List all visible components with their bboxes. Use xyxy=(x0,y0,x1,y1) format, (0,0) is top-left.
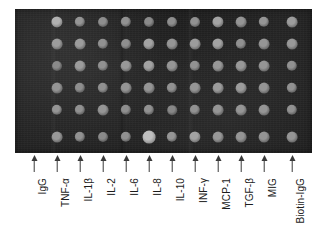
array-spot xyxy=(167,105,177,115)
array-spot xyxy=(143,131,156,144)
arrow-shaft xyxy=(56,160,58,172)
pointer-arrow-mig xyxy=(260,155,269,172)
array-spot xyxy=(190,61,200,71)
array-spot xyxy=(190,83,201,94)
array-spot xyxy=(236,132,247,143)
array-spot xyxy=(213,105,224,116)
array-spot xyxy=(259,61,270,72)
array-spot xyxy=(287,83,297,93)
arrow-shaft xyxy=(102,160,104,172)
array-spot xyxy=(236,105,247,116)
array-spot xyxy=(190,39,201,50)
array-spot xyxy=(259,39,270,50)
label-tnf-alpha: TNF-α xyxy=(61,178,71,207)
pointer-arrow-il-2 xyxy=(99,155,108,172)
array-spot xyxy=(259,132,270,143)
array-spot xyxy=(259,105,270,116)
label-il-2: IL-2 xyxy=(107,178,117,196)
array-spot xyxy=(75,17,85,27)
array-spot xyxy=(213,61,224,72)
pointer-arrow-il-6 xyxy=(122,155,131,172)
array-spot xyxy=(213,132,224,143)
array-spot xyxy=(236,61,247,72)
array-spot xyxy=(259,17,269,27)
array-spot xyxy=(75,83,85,93)
array-spot xyxy=(167,39,178,50)
arrow-shaft xyxy=(33,160,35,172)
array-spot xyxy=(52,83,63,94)
array-spot xyxy=(98,61,108,71)
array-spot xyxy=(144,105,154,115)
arrow-shaft xyxy=(148,160,150,172)
array-spot xyxy=(236,17,247,28)
array-spot xyxy=(121,61,132,72)
pointer-arrow-tgf-beta xyxy=(237,155,246,172)
pointer-arrow-il-10 xyxy=(168,155,177,172)
array-spot xyxy=(98,17,108,27)
array-spot xyxy=(167,17,177,27)
array-spot xyxy=(121,132,131,142)
array-spot xyxy=(75,132,85,142)
label-mig: MIG xyxy=(268,178,278,197)
array-spot xyxy=(98,83,108,93)
array-spot xyxy=(51,16,62,27)
array-spot xyxy=(52,61,62,71)
array-spot xyxy=(52,39,63,50)
arrow-shaft xyxy=(263,160,265,172)
array-spot xyxy=(167,83,177,93)
array-spot xyxy=(212,16,223,27)
array-spot xyxy=(52,132,63,143)
pointer-arrow-il-1beta xyxy=(76,155,85,172)
array-spot xyxy=(213,83,224,94)
array-spot xyxy=(52,105,62,115)
label-tgf-beta: TGF-β xyxy=(245,178,255,208)
array-figure: IgGTNF-αIL-1βIL-2IL-6IL-8IL-10INF-γMCP-1… xyxy=(0,0,326,242)
label-il-10: IL-10 xyxy=(176,178,186,201)
array-spot xyxy=(212,38,223,49)
arrow-shaft xyxy=(217,160,219,172)
array-spot xyxy=(143,60,154,71)
array-spot xyxy=(75,39,86,50)
array-spot xyxy=(287,39,298,50)
array-spot xyxy=(121,83,132,94)
arrow-shaft xyxy=(291,160,293,172)
membrane-streak-artifacts xyxy=(15,9,312,153)
pointer-arrow-mcp-1 xyxy=(214,155,223,172)
array-spot xyxy=(167,132,177,142)
pointer-arrow-inf-gamma xyxy=(191,155,200,172)
arrow-shaft xyxy=(194,160,196,172)
array-spot xyxy=(190,105,200,115)
pointer-arrow-igg xyxy=(30,155,39,172)
arrow-shaft xyxy=(171,160,173,172)
array-spot xyxy=(167,61,178,72)
array-spot xyxy=(190,17,200,27)
array-spot xyxy=(189,131,200,142)
array-spot xyxy=(236,83,247,94)
label-il-8: IL-8 xyxy=(153,178,163,196)
array-spot xyxy=(144,83,155,94)
array-membrane xyxy=(15,9,312,153)
label-il-6: IL-6 xyxy=(130,178,140,196)
arrow-shaft xyxy=(125,160,127,172)
array-spot xyxy=(143,38,154,49)
pointer-arrow-tnf-alpha xyxy=(53,155,62,172)
array-spot xyxy=(121,17,131,27)
array-spot xyxy=(75,105,85,115)
array-spot xyxy=(259,83,270,94)
label-mcp-1: MCP-1 xyxy=(222,178,232,210)
array-spot xyxy=(121,39,131,49)
array-spot xyxy=(98,39,108,49)
array-spot xyxy=(75,61,86,72)
array-spot xyxy=(98,105,109,116)
array-spot xyxy=(287,17,298,28)
label-igg: IgG xyxy=(38,178,48,194)
array-spot xyxy=(287,132,298,143)
arrow-shaft xyxy=(79,160,81,172)
pointer-arrow-biotin-igg xyxy=(288,155,297,172)
array-spot xyxy=(144,17,154,27)
label-inf-gamma: INF-γ xyxy=(199,178,209,203)
array-spot xyxy=(287,61,297,71)
array-spot xyxy=(236,39,246,49)
array-spot xyxy=(98,132,108,142)
array-spot xyxy=(121,105,131,115)
